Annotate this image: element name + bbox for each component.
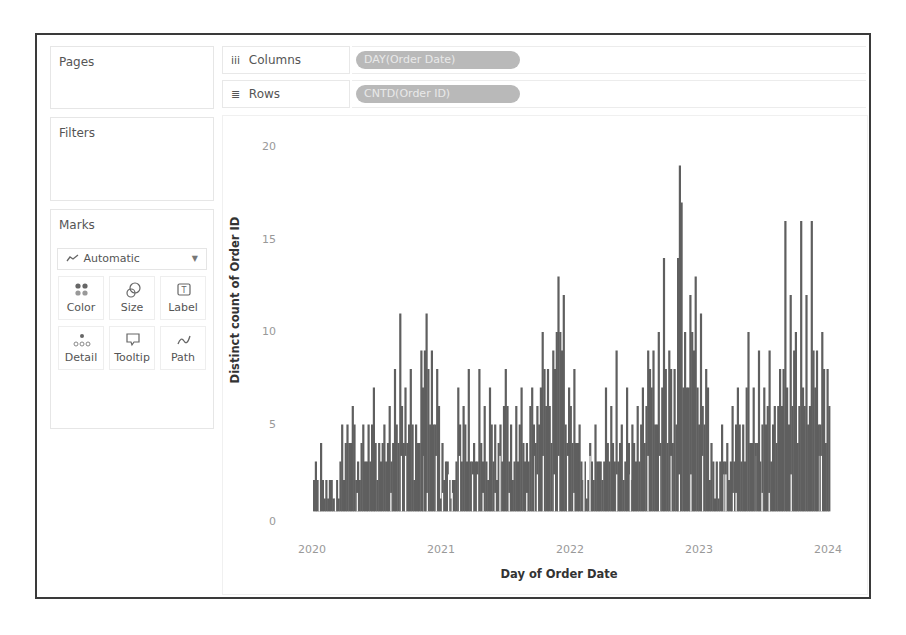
bar-plot[interactable] [0, 0, 906, 635]
